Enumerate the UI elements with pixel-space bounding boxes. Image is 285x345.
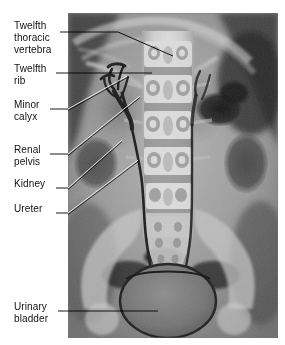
radiograph-canvas bbox=[68, 13, 278, 338]
label-renal-pelvis: Renal pelvis bbox=[14, 144, 41, 168]
label-ureter: Ureter bbox=[14, 203, 42, 215]
label-urinary-bladder: Urinary bladder bbox=[14, 301, 48, 325]
annotated-radiograph-figure: Twelfth thoracic vertebra Twelfth rib Mi… bbox=[0, 0, 285, 345]
label-kidney: Kidney bbox=[14, 178, 45, 190]
label-twelfth-rib: Twelfth rib bbox=[14, 63, 46, 87]
label-minor-calyx: Minor calyx bbox=[14, 99, 40, 123]
radiograph-plate bbox=[68, 13, 278, 338]
label-twelfth-thoracic-vertebra: Twelfth thoracic vertebra bbox=[14, 20, 52, 56]
